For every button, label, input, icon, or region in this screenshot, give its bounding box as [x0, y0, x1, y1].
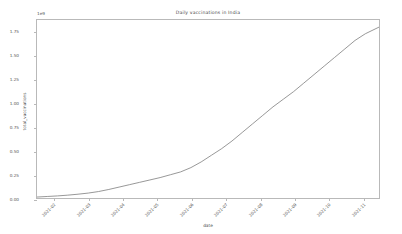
x-tick-mark — [192, 198, 193, 201]
y-tick-mark — [34, 32, 37, 33]
y-tick-label: 0.50 — [0, 149, 19, 154]
y-tick-label: 1.00 — [0, 101, 19, 106]
x-tick-mark — [364, 198, 365, 201]
y-axis-offset-label: 1e9 — [37, 11, 45, 16]
x-tick-mark — [89, 198, 90, 201]
y-tick-label: 1.50 — [0, 53, 19, 58]
y-tick-mark — [34, 176, 37, 177]
x-tick-mark — [329, 198, 330, 201]
x-tick-mark — [123, 198, 124, 201]
y-tick-label: 1.25 — [0, 77, 19, 82]
y-tick-mark — [34, 200, 37, 201]
data-line-series — [37, 20, 379, 198]
chart-figure: Daily vaccinations in India 1e9 total_va… — [0, 0, 402, 234]
x-tick-mark — [295, 198, 296, 201]
y-tick-label: 0.00 — [0, 197, 19, 202]
x-tick-label: 2021-02 — [11, 202, 57, 234]
y-tick-label: 1.75 — [0, 29, 19, 34]
y-tick-label: 0.25 — [0, 173, 19, 178]
y-axis-label: total_vaccinations — [22, 93, 27, 131]
y-tick-mark — [34, 56, 37, 57]
y-tick-mark — [34, 128, 37, 129]
x-tick-mark — [226, 198, 227, 201]
y-tick-mark — [34, 80, 37, 81]
chart-title: Daily vaccinations in India — [36, 10, 380, 15]
x-tick-mark — [261, 198, 262, 201]
y-tick-mark — [34, 104, 37, 105]
x-tick-mark — [54, 198, 55, 201]
plot-area — [36, 19, 380, 199]
y-tick-label: 0.75 — [0, 125, 19, 130]
y-tick-mark — [34, 152, 37, 153]
x-tick-mark — [157, 198, 158, 201]
